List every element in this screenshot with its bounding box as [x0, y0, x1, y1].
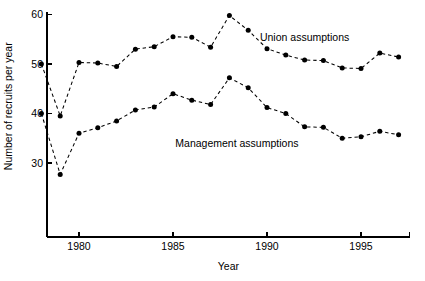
data-point-union-assumptions-1989 [246, 28, 251, 33]
series-line-management-assumptions [41, 78, 398, 175]
series-label-union-assumptions: Union assumptions [260, 31, 349, 43]
x-axis-title: Year [218, 260, 240, 272]
recruits-line-chart: 30405060 1980198519901995 Union assumpti… [0, 0, 425, 281]
data-point-union-assumptions-1985 [171, 34, 176, 39]
data-point-union-assumptions-1994 [340, 65, 345, 70]
data-point-union-assumptions-1986 [189, 35, 194, 40]
data-point-management-assumptions-1982 [114, 118, 119, 123]
data-point-management-assumptions-1992 [302, 124, 307, 129]
data-point-union-assumptions-1993 [321, 58, 326, 63]
data-point-management-assumptions-1995 [359, 134, 364, 139]
data-point-union-assumptions-1995 [359, 66, 364, 71]
data-point-management-assumptions-1980 [77, 131, 82, 136]
y-tick-label-30: 30 [31, 157, 43, 169]
series-union-assumptions [39, 13, 401, 118]
data-point-management-assumptions-1978 [39, 111, 44, 116]
data-point-management-assumptions-1987 [208, 102, 213, 107]
data-point-union-assumptions-1982 [114, 64, 119, 69]
data-point-management-assumptions-1984 [152, 105, 157, 110]
x-tick-label-1980: 1980 [67, 240, 91, 252]
series-inline-labels: Union assumptionsManagement assumptions [175, 31, 349, 149]
data-point-union-assumptions-1996 [377, 51, 382, 56]
data-point-union-assumptions-1978 [39, 62, 44, 67]
data-point-management-assumptions-1988 [227, 75, 232, 80]
y-axis-ticks: 30405060 [31, 8, 52, 169]
data-point-management-assumptions-1985 [171, 91, 176, 96]
data-point-union-assumptions-1991 [283, 53, 288, 58]
y-axis-group: 30405060 [31, 8, 52, 237]
data-point-management-assumptions-1986 [189, 98, 194, 103]
x-axis-group: 1980198519901995 [47, 232, 410, 252]
data-point-union-assumptions-1980 [77, 60, 82, 65]
data-point-union-assumptions-1981 [95, 61, 100, 66]
data-point-management-assumptions-1996 [377, 129, 382, 134]
data-point-management-assumptions-1981 [95, 125, 100, 130]
series-label-management-assumptions: Management assumptions [175, 137, 298, 149]
data-point-union-assumptions-1987 [208, 45, 213, 50]
data-point-management-assumptions-1997 [396, 132, 401, 137]
data-point-union-assumptions-1983 [133, 47, 138, 52]
data-point-union-assumptions-1979 [58, 113, 63, 118]
data-point-management-assumptions-1983 [133, 108, 138, 113]
x-tick-label-1990: 1990 [255, 240, 279, 252]
y-axis-title: Number of recruits per year [2, 42, 14, 170]
data-point-union-assumptions-1984 [152, 44, 157, 49]
data-point-union-assumptions-1997 [396, 55, 401, 60]
data-point-management-assumptions-1979 [58, 172, 63, 177]
x-tick-label-1995: 1995 [349, 240, 373, 252]
x-axis-ticks: 1980198519901995 [47, 232, 410, 252]
data-point-union-assumptions-1990 [265, 46, 270, 51]
chart-canvas: 30405060 1980198519901995 Union assumpti… [0, 0, 425, 281]
data-point-management-assumptions-1994 [340, 136, 345, 141]
x-tick-label-1985: 1985 [161, 240, 185, 252]
data-point-management-assumptions-1993 [321, 125, 326, 130]
y-tick-label-60: 60 [31, 8, 43, 20]
data-point-management-assumptions-1990 [265, 105, 270, 110]
data-point-union-assumptions-1992 [302, 58, 307, 63]
data-point-union-assumptions-1988 [227, 13, 232, 18]
data-point-management-assumptions-1991 [283, 111, 288, 116]
data-point-management-assumptions-1989 [246, 85, 251, 90]
series-management-assumptions [39, 75, 401, 177]
